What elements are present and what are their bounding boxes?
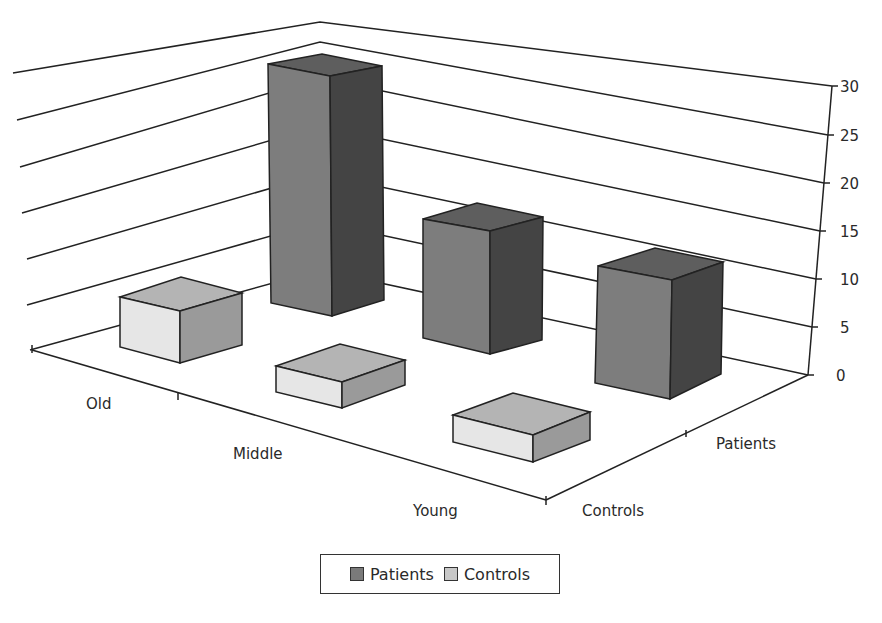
bar-old-controls [120,277,242,363]
svg-text:30: 30 [840,78,859,96]
y-axis-ticks [808,86,838,375]
svg-text:20: 20 [840,175,859,193]
x-label-middle: Middle [233,445,283,463]
legend-label-controls: Controls [464,565,530,584]
y-axis-labels: 0 5 10 15 20 25 30 [836,78,859,385]
bar-young-patients [595,248,723,399]
svg-text:5: 5 [840,319,850,337]
legend-label-patients: Patients [370,565,434,584]
bar-middle-controls [276,344,405,408]
svg-text:0: 0 [836,367,846,385]
x-label-old: Old [86,395,112,413]
x-label-young: Young [412,502,458,520]
legend-item-patients: Patients [350,565,434,584]
bar-old-patients [268,54,384,316]
svg-text:10: 10 [840,271,859,289]
chart-3d-bar: 0 5 10 15 20 25 30 [0,0,882,623]
bar-young-controls [453,393,590,462]
legend: Patients Controls [320,554,560,594]
bar-middle-patients [423,203,543,354]
legend-item-controls: Controls [444,565,530,584]
depth-label-patients: Patients [716,435,776,453]
legend-swatch-patients [350,567,364,581]
legend-swatch-controls [444,567,458,581]
svg-text:25: 25 [840,127,859,145]
depth-label-controls: Controls [582,502,644,520]
svg-text:15: 15 [840,223,859,241]
